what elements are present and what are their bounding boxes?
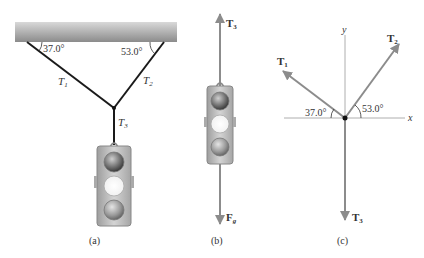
lamp-middle: [211, 115, 229, 133]
traffic-light-a: [94, 143, 134, 226]
label-t2: T2: [387, 32, 398, 46]
panel-c: x y 37.0° 53.0° T1 T2 T3 (c): [277, 24, 413, 247]
ceiling: [15, 22, 177, 42]
label-t2: T2: [143, 74, 153, 88]
axis-x-label: x: [407, 112, 413, 123]
caption-a: (a): [89, 235, 100, 247]
label-fg: Fg: [226, 211, 237, 225]
axis-y-label: y: [341, 24, 347, 35]
caption-b: (b): [211, 235, 223, 247]
angle-arc-right: [150, 42, 155, 54]
origin-point: [343, 116, 348, 121]
label-t3: T3: [352, 211, 363, 225]
lamp-top: [211, 92, 229, 110]
lamp-bottom: [211, 138, 229, 156]
angle-label-37: 37.0°: [305, 107, 327, 118]
caption-c: (c): [337, 235, 348, 247]
angle-arc-53: [355, 105, 361, 118]
knot: [112, 106, 116, 110]
label-t3: T3: [118, 116, 128, 130]
angle-label-37: 37.0°: [43, 43, 65, 54]
label-t1: T1: [277, 55, 288, 69]
diagram-canvas: 37.0° 53.0° T1 T2 T3 (a) T3 Fg: [0, 0, 424, 258]
lamp-bottom: [104, 200, 124, 220]
angle-label-53: 53.0°: [362, 103, 384, 114]
label-t1: T1: [58, 75, 68, 89]
label-t3-up: T3: [226, 17, 237, 31]
rope-t1: [27, 42, 114, 108]
angle-arc-left: [39, 42, 42, 51]
panel-b: T3 Fg (b): [204, 14, 237, 247]
traffic-light-b: [204, 83, 236, 164]
angle-label-53: 53.0°: [121, 46, 143, 57]
panel-a: 37.0° 53.0° T1 T2 T3 (a): [15, 22, 177, 247]
lamp-middle: [104, 176, 124, 196]
lamp-top: [104, 152, 124, 172]
